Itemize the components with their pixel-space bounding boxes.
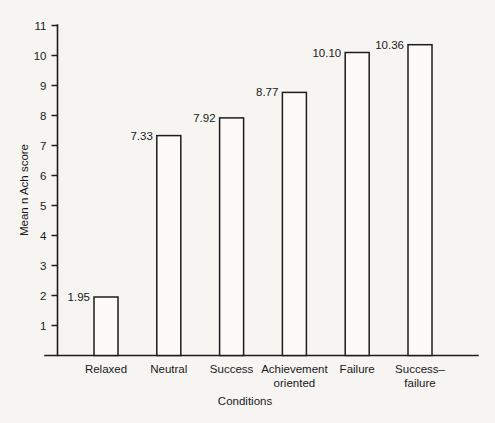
- bar-value-label: 7.92: [193, 112, 215, 124]
- bar: [220, 118, 244, 356]
- bar-value-label: 10.36: [375, 39, 404, 51]
- bar: [157, 136, 181, 356]
- x-axis-title: Conditions: [218, 395, 273, 407]
- bar: [282, 92, 306, 355]
- bar-value-label: 7.33: [130, 130, 152, 142]
- y-axis-tick-labels: 1234567891011: [34, 20, 47, 332]
- x-axis-category-labels: RelaxedNeutralSuccessAchievementoriented…: [85, 363, 446, 389]
- bar-value-label: 10.10: [312, 47, 341, 59]
- x-category-label: Success–failure: [395, 363, 445, 389]
- chart-canvas: 1234567891011 1.957.337.928.7710.1010.36…: [0, 0, 495, 423]
- y-tick-label: 2: [40, 290, 46, 302]
- bar-value-label: 8.77: [256, 86, 278, 98]
- bar-value-label: 1.95: [68, 291, 90, 303]
- y-axis-tick-marks: [52, 26, 58, 326]
- y-tick-label: 3: [40, 260, 46, 272]
- y-tick-label: 10: [34, 50, 47, 62]
- y-tick-label: 6: [40, 170, 46, 182]
- bar: [94, 297, 118, 356]
- y-tick-label: 11: [35, 20, 47, 32]
- bar: [345, 53, 369, 356]
- bar: [408, 45, 432, 356]
- y-tick-label: 1: [40, 320, 46, 332]
- x-category-label: Relaxed: [85, 363, 127, 375]
- x-category-label: Achievementoriented: [261, 363, 328, 389]
- y-tick-label: 4: [40, 230, 47, 242]
- x-category-label: Success: [210, 363, 254, 375]
- y-tick-label: 9: [40, 80, 46, 92]
- y-tick-label: 5: [40, 200, 46, 212]
- y-tick-label: 7: [40, 140, 46, 152]
- bar-chart-figure: 1234567891011 1.957.337.928.7710.1010.36…: [0, 0, 495, 423]
- y-tick-label: 8: [40, 110, 46, 122]
- x-category-label: Failure: [340, 363, 375, 375]
- x-category-label: Neutral: [150, 363, 187, 375]
- y-axis-title: Mean n Ach score: [18, 144, 30, 236]
